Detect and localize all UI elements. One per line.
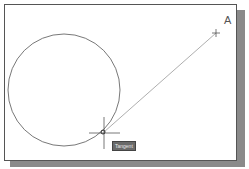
circle-shape[interactable] bbox=[8, 34, 120, 146]
point-a-label: A bbox=[224, 14, 231, 26]
tangent-line[interactable] bbox=[104, 33, 216, 132]
snap-tooltip: Tangent bbox=[112, 141, 136, 151]
